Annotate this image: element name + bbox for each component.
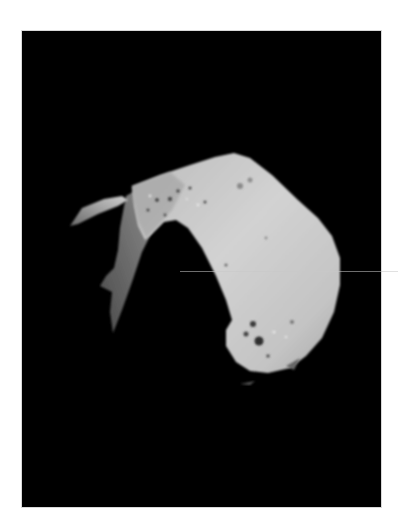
scan-line-artifact <box>180 271 398 272</box>
asteroid-slab <box>70 196 128 226</box>
asteroid-image <box>0 0 400 529</box>
